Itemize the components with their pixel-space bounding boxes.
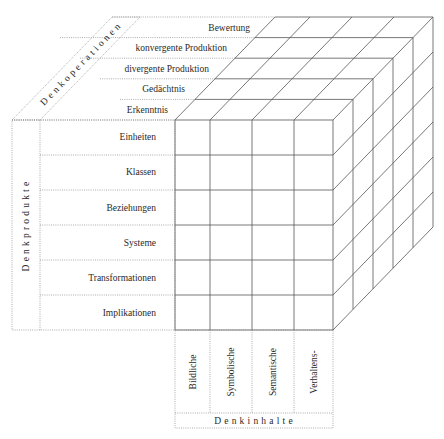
operations-caption: Denkoperationen: [38, 19, 124, 107]
content-label-symbolische: Symbolische: [226, 347, 236, 396]
contents-label-panel: Bildliche Symbolische Semantische Verhal…: [175, 330, 333, 428]
content-label-semantische: Semantische: [268, 348, 278, 396]
operation-label-erkenntnis: Erkenntnis: [127, 105, 168, 115]
products-caption: Denkprodukte: [21, 179, 31, 272]
product-label-klassen: Klassen: [126, 167, 156, 177]
product-label-systeme: Systeme: [124, 238, 156, 248]
content-label-bildliche: Bildliche: [188, 355, 198, 390]
product-label-transformationen: Transformationen: [88, 273, 156, 283]
operation-label-divergente-produktion: divergente Produktion: [124, 64, 209, 74]
product-label-beziehungen: Beziehungen: [106, 203, 156, 213]
contents-caption: Denkinhalte: [214, 416, 296, 426]
products-label-panel: Einheiten Klassen Beziehungen Systeme Tr…: [12, 120, 175, 330]
product-label-einheiten: Einheiten: [120, 132, 157, 142]
soi-cube-diagram: Bewertung konvergente Produktion diverge…: [0, 0, 444, 439]
product-label-implikationen: Implikationen: [103, 308, 157, 318]
operations-label-panel: Bewertung konvergente Produktion diverge…: [12, 17, 275, 120]
operation-label-konvergente-produktion: konvergente Produktion: [136, 43, 228, 53]
content-label-verhaltens: Verhaltens-: [309, 350, 319, 393]
operation-label-gedaechtnis: Gedächtnis: [142, 84, 185, 94]
operation-label-bewertung: Bewertung: [208, 23, 250, 33]
cube-grid: [175, 17, 433, 330]
